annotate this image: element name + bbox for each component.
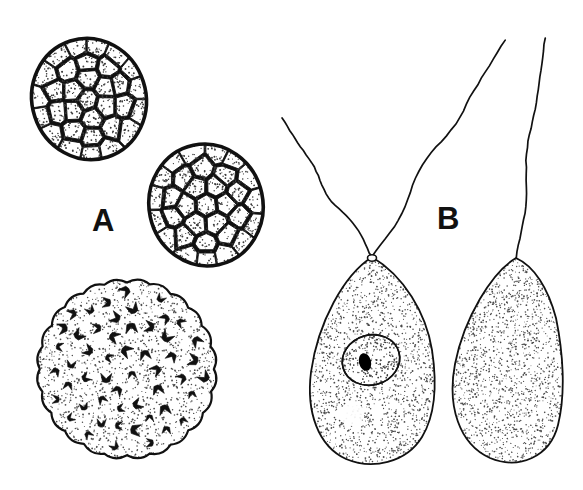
- illustration-canvas: [0, 0, 583, 490]
- panel-label-b: B: [437, 203, 459, 234]
- vacuole: [340, 402, 364, 426]
- basal-body: [368, 255, 377, 261]
- panel-label-a: A: [92, 205, 114, 236]
- colony-cell: [63, 122, 84, 139]
- figure-root: A B: [0, 0, 583, 490]
